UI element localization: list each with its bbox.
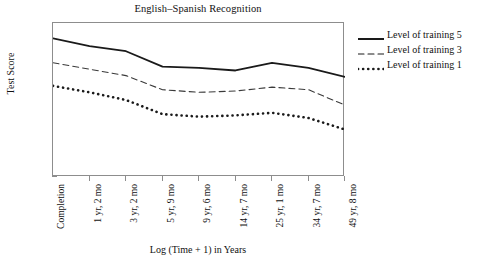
x-tick-label: 5 yr, 9 mo: [166, 184, 176, 223]
x-axis-label: Log (Time + 1) in Years: [52, 244, 344, 255]
x-tick-label: 14 yr, 7 mo: [239, 184, 249, 227]
legend-label: Level of training 5: [387, 30, 462, 40]
chart-figure: English–Spanish Recognition Test Score 0…: [0, 0, 480, 267]
x-tick-label: 1 yr, 2 mo: [93, 184, 103, 223]
plot-lines: [53, 23, 345, 177]
legend-swatch-solid-icon: [358, 30, 384, 40]
x-tick-label: 49 yr, 8 mo: [348, 184, 358, 227]
y-axis-ticks: 024681012: [0, 22, 52, 176]
series-line: [53, 38, 345, 77]
x-tick-label: 34 yr, 7 mo: [312, 184, 322, 227]
legend-label: Level of training 3: [387, 45, 462, 55]
x-tick-label: 9 yr, 6 mo: [202, 184, 212, 223]
legend-label: Level of training 1: [387, 60, 462, 70]
plot-area: [52, 22, 344, 176]
x-tick-label: 25 yr, 1 mo: [275, 184, 285, 227]
legend-item[interactable]: Level of training 5: [358, 28, 478, 41]
x-tick-label: Completion: [56, 184, 66, 229]
legend-swatch-dotted-icon: [358, 60, 384, 70]
legend-swatch-dashed-icon: [358, 45, 384, 55]
series-line: [53, 63, 345, 105]
legend-item[interactable]: Level of training 1: [358, 58, 478, 71]
x-tick-label: 3 yr, 2 mo: [129, 184, 139, 223]
chart-title: English–Spanish Recognition: [52, 3, 344, 14]
legend-item[interactable]: Level of training 3: [358, 43, 478, 56]
chart-legend: Level of training 5Level of training 3Le…: [358, 28, 478, 73]
